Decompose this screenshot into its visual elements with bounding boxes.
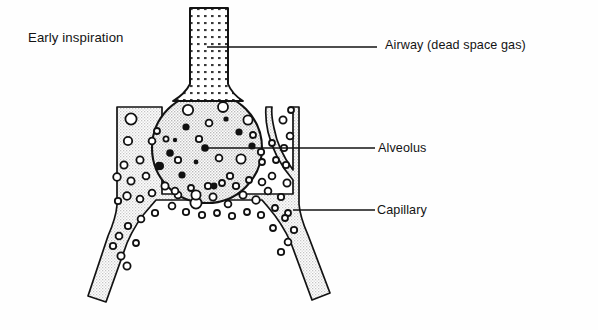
open-particle: [152, 210, 158, 216]
filled-particle: [211, 183, 218, 190]
filled-particle: [173, 138, 177, 142]
filled-particle: [235, 128, 242, 135]
open-particle: [283, 162, 289, 168]
open-particle: [285, 239, 292, 246]
filled-particle: [166, 149, 174, 157]
open-particle: [161, 182, 168, 189]
figure-title: Early inspiration: [28, 31, 124, 44]
open-particle: [252, 196, 260, 204]
open-particle: [125, 113, 136, 124]
open-particle: [199, 212, 205, 218]
open-particle: [175, 157, 181, 163]
open-particle: [127, 177, 134, 184]
open-particle: [115, 198, 121, 204]
open-particle: [243, 115, 252, 124]
open-particle: [154, 128, 160, 134]
filled-particle: [156, 162, 164, 170]
open-particle: [196, 136, 202, 142]
open-particle: [229, 213, 235, 219]
open-particle: [120, 161, 127, 168]
open-particle: [113, 173, 121, 181]
open-particle: [125, 223, 131, 229]
open-particle: [172, 188, 179, 195]
open-particle: [169, 203, 176, 210]
open-particle: [188, 185, 194, 191]
open-particle: [244, 209, 250, 215]
filled-particle: [182, 123, 189, 130]
open-particle: [227, 173, 233, 179]
open-particle: [137, 196, 144, 203]
open-particle: [233, 183, 239, 189]
airway-tube: [173, 8, 243, 101]
open-particle: [183, 209, 189, 215]
open-particle: [149, 138, 156, 145]
open-particle: [116, 233, 123, 240]
open-particle: [273, 157, 279, 163]
filled-particle: [194, 160, 199, 165]
diagram-canvas: Early inspiration Airway (dead space gas…: [0, 0, 598, 330]
open-particle: [218, 102, 228, 112]
open-particle: [136, 156, 143, 163]
open-particle: [117, 252, 124, 259]
filled-particle: [178, 171, 185, 178]
open-particle: [269, 173, 276, 180]
open-particle: [259, 159, 265, 165]
open-particle: [123, 262, 130, 269]
open-particle: [279, 116, 286, 123]
open-particle: [209, 193, 216, 200]
open-particle: [283, 179, 290, 186]
open-particle: [258, 149, 264, 155]
open-particle: [219, 180, 225, 186]
open-particle: [272, 205, 278, 211]
open-particle: [287, 133, 294, 140]
open-particle: [216, 155, 223, 162]
label-alveolus: Alveolus: [378, 142, 426, 155]
open-particle: [123, 192, 131, 200]
airway-structure: [173, 8, 243, 101]
open-particle: [205, 183, 211, 189]
open-particle: [291, 227, 297, 233]
open-particle: [138, 216, 145, 223]
filled-particle: [223, 116, 228, 121]
open-particle: [191, 190, 200, 199]
open-particle: [110, 243, 116, 249]
open-particle: [278, 249, 284, 255]
open-particle: [258, 212, 264, 218]
label-capillary: Capillary: [377, 204, 427, 217]
open-particle: [225, 201, 232, 208]
open-particle: [206, 120, 213, 127]
open-particle: [288, 107, 294, 113]
open-particle: [259, 179, 266, 186]
open-particle: [269, 140, 275, 146]
open-particle: [124, 137, 132, 145]
open-particle: [246, 177, 252, 183]
open-particle: [250, 132, 256, 138]
open-particle: [149, 190, 156, 197]
open-particle: [133, 240, 139, 246]
open-particle: [265, 188, 272, 195]
open-particle: [278, 194, 284, 200]
open-particle: [143, 173, 150, 180]
open-particle: [236, 154, 245, 163]
open-particle: [183, 105, 193, 115]
label-airway: Airway (dead space gas): [385, 39, 526, 52]
open-particle: [163, 136, 168, 141]
open-particle: [282, 215, 288, 221]
open-particle: [270, 225, 276, 231]
open-particle: [214, 210, 220, 216]
open-particle: [239, 191, 246, 198]
